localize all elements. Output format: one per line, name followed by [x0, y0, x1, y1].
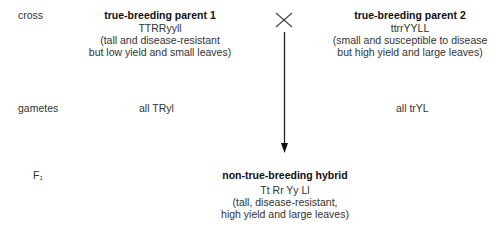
hybrid-title: non-true-breeding hybrid: [185, 169, 385, 181]
arrow-down-icon: [281, 32, 288, 153]
hybrid-block: non-true-breeding hybrid Tt Rr Yy Ll (ta…: [185, 169, 385, 220]
hybrid-description-line1: (tall, disease-resistant,: [185, 196, 385, 208]
hybrid-description-line2: high yield and large leaves): [185, 208, 385, 220]
hybrid-genotype: Tt Rr Yy Ll: [185, 184, 385, 196]
cross-icon: [276, 13, 292, 27]
